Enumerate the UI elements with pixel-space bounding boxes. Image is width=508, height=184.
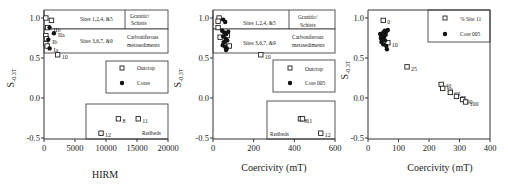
x-axis-label: Coercivity (mT) xyxy=(407,162,472,174)
filled-circle-marker xyxy=(223,20,227,24)
y-tick-label: 0.5 xyxy=(198,53,209,63)
legend-label-core-005: Core 005 xyxy=(305,80,326,86)
legend-label-site-11: % Site 11 xyxy=(460,16,481,22)
y-tick-label: 1.0 xyxy=(198,13,209,23)
region-category-carboniferous: Carboniferous xyxy=(127,34,158,40)
filled-circle-marker xyxy=(52,31,56,35)
open-square-marker xyxy=(300,117,304,121)
y-tick-label: 0.5 xyxy=(29,53,40,63)
x-tick-label: 300 xyxy=(453,143,466,153)
open-square-marker xyxy=(448,90,452,94)
legend-filled-circle-icon xyxy=(120,81,124,85)
region-category-granitic: Granitic/ xyxy=(130,13,150,19)
y-tick-label: 1.0 xyxy=(353,13,364,23)
point-label: Ia xyxy=(54,47,59,53)
region-label-redbeds: Redbeds xyxy=(270,131,289,137)
filled-circle-marker xyxy=(386,28,390,32)
figure: Sites 1,2,4, &5 Granitic/ Schists Sites … xyxy=(0,0,508,184)
legend-open-square-icon xyxy=(288,66,292,70)
point-label: 100 xyxy=(470,101,479,107)
y-tick-label: 0.0 xyxy=(29,93,40,103)
filled-circle-marker xyxy=(46,37,50,41)
legend-filled-circle-icon xyxy=(443,32,447,36)
y-axis-label: S-0.3T xyxy=(172,68,184,87)
open-square-marker xyxy=(454,94,458,98)
y-tick-label: 0.0 xyxy=(198,93,209,103)
x-tick-label: 5000 xyxy=(67,143,84,153)
legend-label-outcrop: Outcrop xyxy=(305,66,323,72)
open-square-marker xyxy=(44,16,48,20)
y-tick-label: 0.0 xyxy=(353,93,364,103)
x-tick-label: 400 xyxy=(484,143,497,153)
y-axis-label: S-0.3T xyxy=(339,60,351,79)
region-category-schists: Schists xyxy=(131,20,147,26)
y-tick-label: -0.5 xyxy=(27,133,40,143)
point-label: 10 xyxy=(392,42,398,48)
x-tick-label: 10000 xyxy=(95,143,116,153)
open-square-marker xyxy=(259,53,263,57)
y-tick-label: -0.5 xyxy=(196,133,209,143)
point-label: 12 xyxy=(325,132,331,138)
open-square-marker xyxy=(136,117,140,121)
x-tick-label: 200 xyxy=(423,143,436,153)
region-label-sites-1245: Sites 1,2,4, &5 xyxy=(243,20,276,26)
x-tick-label: 15000 xyxy=(126,143,147,153)
region-category-metasediments: metasediments xyxy=(292,42,325,48)
filled-circle-marker xyxy=(226,29,230,33)
open-square-marker xyxy=(216,19,220,23)
legend xyxy=(428,10,490,42)
legend-filled-circle-icon xyxy=(288,81,292,85)
x-axis-label: Coercivity (mT) xyxy=(241,162,306,174)
filled-circle-marker xyxy=(224,48,228,52)
point-label: 8 xyxy=(122,118,125,124)
filled-circle-marker xyxy=(383,38,387,42)
region-category-metasediments: metasediments xyxy=(127,42,160,48)
point-label: 0 xyxy=(387,19,390,25)
x-tick-label: 0 xyxy=(211,143,215,153)
x-tick-label: 100 xyxy=(392,143,405,153)
open-square-marker xyxy=(441,86,445,90)
region-category-schists: Schists xyxy=(300,22,316,28)
point-label: 11 xyxy=(306,118,312,124)
region-label-sites-3679: Sites 3,6,7, &9 xyxy=(80,38,113,44)
region-label-sites-3679: Sites 3,6,7, &9 xyxy=(243,40,276,46)
x-tick-label: 0 xyxy=(366,143,370,153)
panel-coercivity-a: Sites 1,2,4, &5 Granitic/ Schists Sites … xyxy=(172,10,341,174)
open-square-marker xyxy=(99,131,103,135)
filled-circle-marker xyxy=(47,25,51,29)
y-tick-label: 0.5 xyxy=(353,53,364,63)
x-tick-label: 200 xyxy=(247,143,260,153)
region-category-granitic: Granitic/ xyxy=(298,14,318,20)
open-square-marker xyxy=(116,117,120,121)
point-label: Ib xyxy=(52,39,57,45)
open-square-marker xyxy=(319,131,323,135)
panel-hirm: Sites 1,2,4, &5 Granitic/ Schists Sites … xyxy=(5,10,179,180)
legend-open-square-icon xyxy=(443,16,447,20)
filled-circle-marker xyxy=(47,46,51,50)
filled-circle-marker xyxy=(383,33,387,37)
region-label-sites-1245: Sites 1,2,4, &5 xyxy=(80,16,113,22)
x-tick-label: 600 xyxy=(329,143,342,153)
open-square-marker xyxy=(216,25,220,29)
point-label: 25 xyxy=(411,66,417,72)
x-axis-label: HIRM xyxy=(92,169,118,180)
region-category-carboniferous: Carboniferous xyxy=(292,34,323,40)
region-label-redbeds: Redbeds xyxy=(142,130,161,136)
legend-label-core-005: Core 005 xyxy=(460,31,481,37)
panel-coercivity-b: % Site 11 Core 005 010254050607590100 -0… xyxy=(339,10,496,174)
legend-label-cores: Cores xyxy=(137,80,150,86)
point-label: 10 xyxy=(265,54,271,60)
open-square-marker xyxy=(405,65,409,69)
legend-open-square-icon xyxy=(120,66,124,70)
x-tick-label: 0 xyxy=(42,143,46,153)
open-square-marker xyxy=(49,18,53,22)
y-tick-label: 1.0 xyxy=(29,13,40,23)
legend-label-outcrop: Outcrop xyxy=(137,65,155,71)
point-label: 11 xyxy=(142,118,148,124)
filled-circle-marker xyxy=(385,47,389,51)
open-square-marker xyxy=(463,100,467,104)
x-tick-label: 20000 xyxy=(157,143,178,153)
x-tick-label: 400 xyxy=(288,143,301,153)
legend xyxy=(273,60,335,92)
point-label: IIa xyxy=(58,32,65,38)
